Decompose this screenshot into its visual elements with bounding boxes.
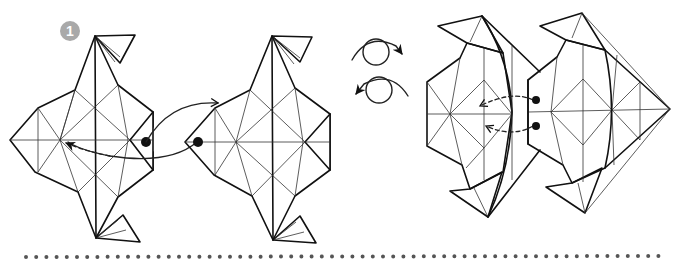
model-turned-over [427,13,670,217]
fold-arrow-upper [480,96,533,106]
bottom-flap [273,216,316,243]
right-half [528,13,670,213]
model-front-dark [185,36,330,243]
reference-dot [193,137,203,147]
model-front-light [10,35,153,242]
origami-diagram [0,0,694,262]
reference-dot [532,122,540,130]
turn-over-right-icon [352,39,402,65]
step-number-badge: 1 [60,21,80,41]
left-half [427,16,540,217]
fold-arrow-upper [146,103,218,142]
bottom-flap [96,215,140,242]
dotted-separator [26,256,661,257]
reference-dot [532,96,540,104]
turn-over-left-icon [356,77,408,103]
